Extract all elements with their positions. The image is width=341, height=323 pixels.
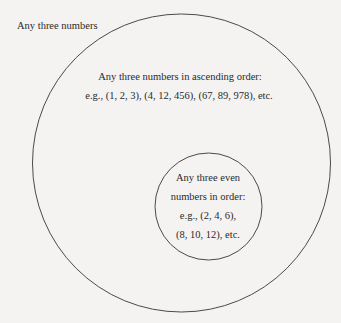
venn-diagram [0,0,341,323]
ascending-set-title: Any three numbers in ascending order: [98,70,262,83]
even-set-line-2: numbers in order: [171,190,246,203]
even-set-line-4: (8, 10, 12), etc. [176,228,240,241]
outer-circle-ascending [33,14,331,312]
ascending-set-examples: e.g., (1, 2, 3), (4, 12, 456), (67, 89, … [85,89,273,102]
inner-circle-even [155,153,262,260]
universe-label: Any three numbers [17,19,97,32]
even-set-line-1: Any three even [176,171,240,184]
even-set-line-3: e.g., (2, 4, 6), [180,209,236,222]
